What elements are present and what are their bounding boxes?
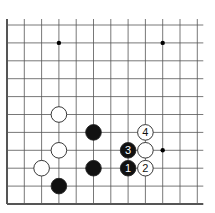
go-board: 1234 [0, 0, 215, 213]
star-point [161, 41, 165, 45]
black-stone [86, 160, 102, 176]
white-stone [51, 107, 67, 123]
white-stone [34, 160, 50, 176]
black-stone [51, 178, 67, 194]
move-number: 2 [142, 162, 148, 174]
move-number: 4 [142, 126, 148, 138]
black-stone [86, 125, 102, 141]
star-point [57, 41, 61, 45]
white-stone [138, 143, 154, 159]
move-number: 3 [125, 144, 131, 156]
move-number: 1 [125, 162, 131, 174]
white-stone [51, 143, 67, 159]
star-point [161, 148, 165, 152]
